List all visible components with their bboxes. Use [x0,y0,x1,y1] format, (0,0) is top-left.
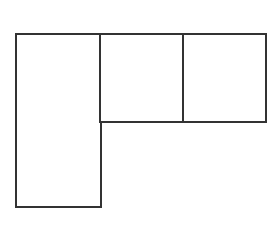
box-top-middle [99,33,185,123]
box-left-tall [15,33,102,208]
box-top-right [182,33,267,123]
